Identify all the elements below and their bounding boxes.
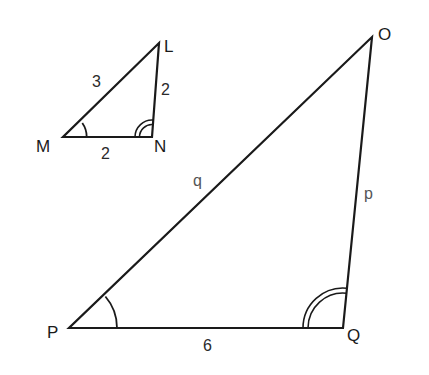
side-label-ml: 3 [92,73,101,90]
side-label-ln: 2 [161,81,170,98]
vertex-label-p: P [47,323,58,342]
vertex-label-n: N [154,137,166,156]
angle-mark-q-outer [303,288,347,328]
side-label-oq: p [364,185,373,202]
angle-mark-n-outer [135,120,153,137]
vertex-label-o: O [378,25,391,44]
angle-mark-q-inner [308,293,347,328]
angle-mark-n-inner [140,125,154,137]
triangle-lmn-outline [63,43,159,137]
vertex-label-l: L [164,37,173,56]
vertex-label-m: M [36,137,50,156]
angle-mark-m [82,123,86,137]
triangle-lmn: L M N 3 2 2 [36,37,173,162]
angle-mark-p [105,297,117,329]
side-label-po: q [193,172,202,189]
side-label-pq: 6 [203,337,212,354]
side-label-mn: 2 [101,145,110,162]
triangle-opq-outline [69,37,372,328]
vertex-label-q: Q [347,326,360,345]
similar-triangles-diagram: L M N 3 2 2 O P Q q p 6 [0,0,429,375]
